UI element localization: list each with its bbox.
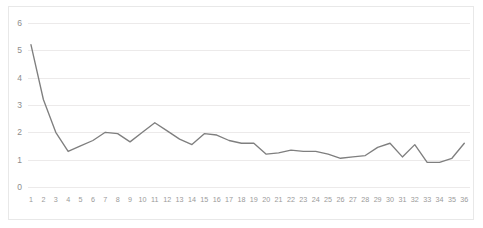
x-axis-tick-label: 4 — [66, 196, 70, 203]
y-axis-tick-label: 1 — [6, 156, 22, 165]
x-axis-tick-label: 2 — [41, 196, 45, 203]
x-axis-tick-label: 16 — [213, 196, 221, 203]
plot-area: 0123456 12345678910111213141516171819202… — [0, 0, 483, 228]
gridline — [28, 132, 470, 133]
x-axis-tick-label: 20 — [262, 196, 270, 203]
x-axis-tick-label: 24 — [312, 196, 320, 203]
x-axis-tick-label: 5 — [79, 196, 83, 203]
x-axis-tick-label: 33 — [423, 196, 431, 203]
x-axis-tick-label: 22 — [287, 196, 295, 203]
gridline — [28, 78, 470, 79]
gridline — [28, 105, 470, 106]
x-axis-tick-label: 1 — [29, 196, 33, 203]
x-axis-tick-label: 21 — [275, 196, 283, 203]
series-svg — [0, 0, 483, 228]
x-axis-tick-label: 23 — [299, 196, 307, 203]
y-axis-tick-label: 5 — [6, 46, 22, 55]
gridline — [28, 160, 470, 161]
data-series-line — [31, 45, 464, 163]
x-axis-tick-label: 28 — [361, 196, 369, 203]
x-axis-tick-label: 25 — [324, 196, 332, 203]
x-axis-tick-label: 7 — [103, 196, 107, 203]
x-axis-tick-label: 6 — [91, 196, 95, 203]
x-axis-tick-label: 10 — [138, 196, 146, 203]
y-axis-tick-label: 0 — [6, 183, 22, 192]
gridline — [28, 187, 470, 188]
x-axis-tick-label: 8 — [116, 196, 120, 203]
x-axis-tick-label: 12 — [163, 196, 171, 203]
gridline — [28, 50, 470, 51]
x-axis-tick-label: 26 — [337, 196, 345, 203]
x-axis-tick-label: 9 — [128, 196, 132, 203]
x-axis-tick-label: 14 — [188, 196, 196, 203]
y-axis-tick-label: 6 — [6, 19, 22, 28]
x-axis-tick-label: 13 — [176, 196, 184, 203]
y-axis-tick-label: 3 — [6, 101, 22, 110]
x-axis-tick-label: 19 — [250, 196, 258, 203]
x-axis-tick-label: 36 — [460, 196, 468, 203]
gridline — [28, 23, 470, 24]
x-axis-tick-label: 3 — [54, 196, 58, 203]
x-axis-tick-label: 17 — [225, 196, 233, 203]
y-axis-tick-label: 4 — [6, 74, 22, 83]
x-axis-tick-label: 32 — [411, 196, 419, 203]
x-axis-tick-label: 34 — [436, 196, 444, 203]
y-axis-tick-label: 2 — [6, 128, 22, 137]
x-axis-tick-label: 11 — [151, 196, 158, 203]
x-axis-tick-label: 30 — [386, 196, 394, 203]
x-axis-tick-label: 35 — [448, 196, 456, 203]
line-chart: 0123456 12345678910111213141516171819202… — [0, 0, 483, 228]
x-axis-tick-label: 15 — [200, 196, 208, 203]
x-axis-tick-label: 27 — [349, 196, 357, 203]
x-axis-tick-label: 29 — [374, 196, 382, 203]
x-axis-tick-label: 18 — [237, 196, 245, 203]
x-axis-tick-label: 31 — [398, 196, 406, 203]
